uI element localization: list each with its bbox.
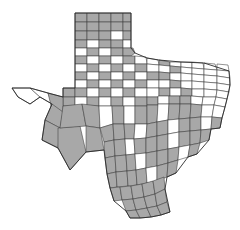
county-region [87, 72, 99, 80]
county-region [75, 40, 87, 48]
county-region [192, 74, 204, 82]
county-region [131, 184, 144, 199]
county-region [75, 80, 87, 88]
county-region [87, 31, 99, 40]
county-region [124, 124, 135, 139]
county-region [135, 88, 147, 97]
county-region [159, 80, 170, 88]
county-region [111, 13, 123, 22]
county-region [87, 40, 99, 48]
county-region [123, 64, 135, 72]
county-region [126, 154, 136, 171]
county-region [190, 130, 201, 145]
county-region [99, 31, 111, 40]
county-region [179, 104, 191, 119]
county-region [135, 80, 147, 88]
county-region [99, 64, 111, 72]
county-region [159, 88, 170, 96]
county-region [111, 80, 123, 88]
county-region [125, 139, 135, 155]
county-region [201, 117, 212, 130]
county-region [179, 131, 190, 147]
county-region [99, 88, 111, 97]
county-region [75, 48, 87, 56]
county-region [123, 22, 131, 31]
county-region [60, 104, 86, 128]
county-region [158, 96, 169, 104]
county-region [87, 56, 99, 64]
county-region [75, 13, 87, 22]
county-region [190, 117, 201, 131]
county-region [147, 105, 158, 124]
county-region [123, 97, 135, 106]
county-region [111, 48, 123, 56]
county-region [111, 64, 123, 72]
county-region [75, 72, 87, 80]
county-region [147, 88, 159, 97]
texas-county-choropleth-map [0, 0, 240, 230]
county-region [168, 132, 179, 149]
county-region [123, 88, 135, 97]
county-region [63, 88, 75, 97]
county-region [181, 73, 192, 81]
county-region [123, 72, 135, 80]
county-region [87, 64, 99, 72]
county-region [99, 13, 111, 22]
county-region [204, 75, 217, 83]
county-region [157, 104, 169, 122]
county-region [147, 80, 159, 88]
county-region [99, 72, 111, 80]
county-region [157, 134, 168, 151]
county-region [123, 13, 131, 22]
county-region [99, 56, 111, 64]
county-region [75, 31, 87, 40]
county-region [136, 168, 147, 185]
county-region [170, 73, 181, 81]
county-region [192, 89, 204, 97]
county-region [123, 40, 131, 48]
county-region [87, 80, 99, 88]
county-region [112, 106, 124, 124]
county-region [87, 13, 99, 22]
county-region [147, 97, 158, 105]
county-region [146, 122, 157, 138]
county-region [168, 104, 180, 120]
county-region [169, 96, 180, 104]
county-region [179, 118, 190, 132]
county-region [202, 97, 216, 105]
county-region [181, 81, 192, 89]
county-region [147, 72, 159, 80]
county-region [87, 48, 99, 56]
county-region [159, 72, 170, 80]
county-region [111, 56, 123, 64]
county-region [157, 120, 168, 136]
county-region [123, 56, 135, 64]
county-region [111, 31, 123, 40]
county-region [123, 31, 131, 40]
county-region [75, 56, 87, 64]
county-region [135, 153, 146, 170]
county-region [75, 88, 87, 97]
county-region [204, 89, 217, 97]
county-region [99, 40, 111, 48]
county-region [135, 72, 147, 80]
county-region [99, 97, 111, 106]
county-region [135, 97, 147, 106]
county-region [111, 97, 123, 106]
county-region [147, 64, 159, 72]
county-region [146, 136, 157, 153]
county-region [181, 88, 192, 96]
county-region [170, 88, 181, 96]
map-svg [0, 0, 240, 230]
county-region [135, 64, 147, 72]
county-region [99, 80, 111, 88]
county-region [180, 96, 191, 104]
county-region [127, 170, 137, 186]
county-region [191, 96, 203, 105]
county-region [99, 22, 111, 31]
county-region [170, 66, 181, 73]
county-region [135, 106, 147, 124]
county-region [111, 88, 123, 97]
county-region [113, 124, 125, 140]
county-region [146, 151, 157, 168]
